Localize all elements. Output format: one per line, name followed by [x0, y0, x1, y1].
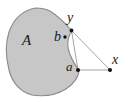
region-label-A: A [22, 33, 31, 48]
point-label-x: x [112, 53, 118, 67]
point-a-marker [76, 68, 80, 72]
point-label-b: b [54, 30, 61, 44]
diagram-svg [0, 0, 128, 102]
point-label-a: a [66, 60, 73, 73]
point-b-marker [63, 35, 66, 38]
segment-group [72, 31, 111, 71]
point-x-marker [108, 68, 112, 72]
figure-canvas: A b y a x [0, 0, 128, 102]
point-y-marker [70, 29, 74, 33]
point-label-y: y [67, 11, 73, 25]
